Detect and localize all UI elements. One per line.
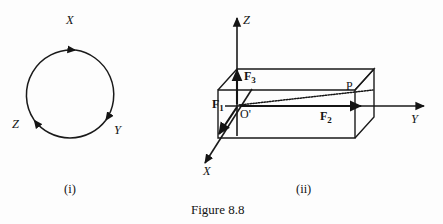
cycle-z-label: Z [12, 118, 19, 131]
figure-root: X Y Z (i) Z Y X F1 F2 F3 O' P (ii) Figur… [0, 0, 443, 224]
axis-y-label: Y [411, 113, 418, 126]
force-f2-sub: 2 [327, 115, 332, 125]
box-right-face [355, 69, 374, 138]
cycle-arc-x [26, 50, 75, 120]
cycle-y-label: Y [114, 124, 121, 137]
box-front-face [218, 90, 355, 138]
force-f1-sub: 1 [219, 103, 224, 113]
axis-x-label: X [203, 165, 211, 178]
point-p-label: P [346, 80, 353, 92]
axes-box-diagram-group [205, 18, 424, 163]
force-f2-label: F2 [320, 110, 332, 125]
cycle-diagram-group [26, 50, 113, 138]
cycle-arc-z [34, 120, 106, 138]
axis-z-label: Z [243, 14, 250, 27]
panel-i-label: (i) [64, 183, 76, 196]
force-f3-label: F3 [244, 70, 256, 85]
force-f3-sub: 3 [251, 75, 256, 85]
origin-label: O' [240, 108, 251, 120]
cycle-arc-y [76, 50, 114, 120]
force-f1-label: F1 [212, 98, 224, 113]
figure-caption: Figure 8.8 [191, 203, 244, 216]
panel-ii-label: (ii) [296, 183, 311, 196]
cycle-x-label: X [66, 14, 74, 27]
